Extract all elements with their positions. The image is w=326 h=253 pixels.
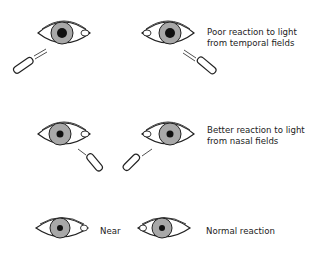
eye-row3-left [34,213,90,243]
penlight-row1-left [10,48,50,78]
label-near: Near [100,226,121,237]
penlight-row1-right [180,48,220,80]
label-better-reaction: Better reaction to light from nasal fiel… [207,125,305,147]
eye-row1-right [140,15,196,51]
penlight-row2-right [120,147,154,177]
label-normal-reaction: Normal reaction [206,226,275,237]
eye-row1-left [36,15,92,51]
eye-row3-right [136,213,192,243]
label-poor-reaction: Poor reaction to light from temporal fie… [207,27,297,49]
penlight-row2-left [76,147,106,177]
